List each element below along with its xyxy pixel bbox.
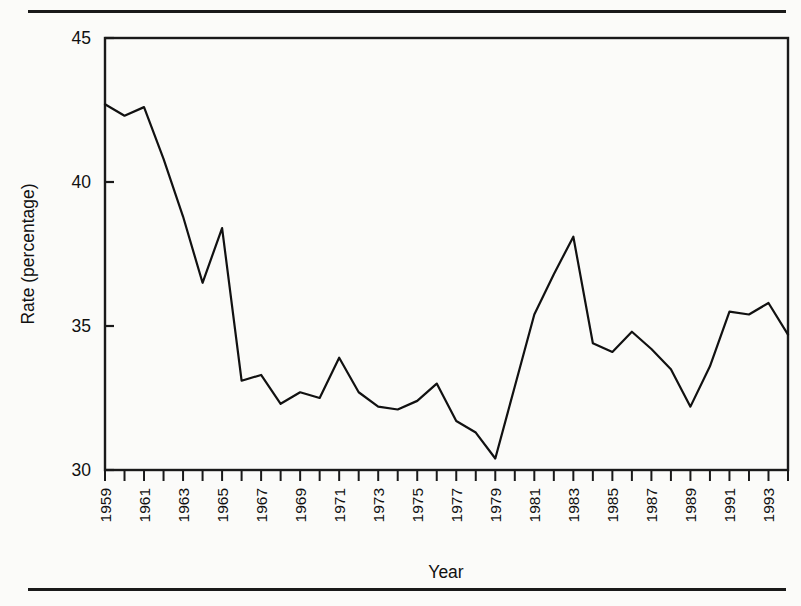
x-tick-label: 1981 (526, 488, 543, 522)
x-tick-label: 1959 (97, 488, 114, 522)
x-tick-label: 1973 (370, 488, 387, 522)
figure-canvas: 30354045 1959196119631965196719691971197… (0, 0, 801, 606)
y-tick-label: 30 (72, 460, 92, 480)
plot-frame (105, 38, 788, 470)
x-tick-label: 1961 (136, 488, 153, 522)
x-tick-label: 1983 (565, 488, 582, 522)
x-axis-tick-labels: 1959196119631965196719691971197319751977… (97, 488, 777, 522)
x-tick-label: 1977 (448, 488, 465, 522)
series-rate-line (105, 104, 788, 458)
y-axis-ticks (105, 38, 114, 470)
x-tick-label: 1971 (331, 488, 348, 522)
x-tick-label: 1975 (409, 488, 426, 522)
x-tick-label: 1985 (604, 488, 621, 522)
y-tick-label: 40 (72, 172, 92, 192)
x-tick-label: 1991 (721, 488, 738, 522)
x-tick-label: 1993 (760, 488, 777, 522)
x-tick-label: 1965 (214, 488, 231, 522)
y-axis-tick-labels: 30354045 (72, 28, 92, 480)
x-axis-ticks (105, 470, 788, 481)
x-tick-label: 1979 (487, 488, 504, 522)
x-tick-label: 1989 (682, 488, 699, 522)
x-tick-label: 1969 (292, 488, 309, 522)
x-tick-label: 1967 (253, 488, 270, 522)
x-tick-label: 1987 (643, 488, 660, 522)
data-series-line (105, 104, 788, 458)
line-chart: 30354045 1959196119631965196719691971197… (0, 0, 801, 606)
y-tick-label: 35 (72, 316, 91, 336)
y-axis-title: Rate (percentage) (18, 183, 38, 324)
x-axis-title: Year (428, 562, 464, 582)
y-tick-label: 45 (72, 28, 91, 48)
x-tick-label: 1963 (175, 488, 192, 522)
